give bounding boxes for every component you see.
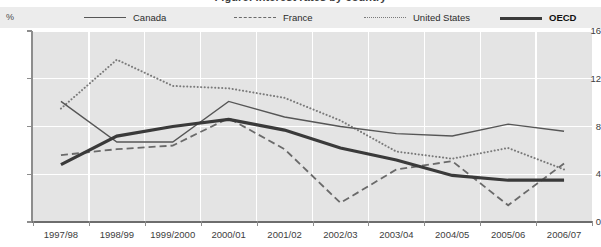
legend-swatch-solid-thin-icon bbox=[84, 17, 126, 18]
legend-swatch-dotted-icon bbox=[364, 17, 406, 18]
series-line-canada bbox=[61, 101, 564, 142]
plot-area: 0481216 1997/981998/991999/20002000/0120… bbox=[0, 28, 601, 247]
series-lines bbox=[0, 28, 601, 247]
chart-legend: % CanadaFranceUnited StatesOECD bbox=[0, 7, 601, 28]
chart-figure: Figure: Interest rates by country % Cana… bbox=[0, 0, 601, 247]
legend-label: France bbox=[283, 12, 313, 23]
clipped-title-strip: Figure: Interest rates by country bbox=[0, 0, 601, 7]
legend-swatch-dashed-icon bbox=[234, 17, 276, 18]
chart-title: Figure: Interest rates by country bbox=[0, 0, 601, 3]
y-axis-unit-label: % bbox=[6, 12, 14, 22]
legend-label: United States bbox=[413, 12, 470, 23]
legend-label: OECD bbox=[549, 12, 576, 23]
legend-label: Canada bbox=[133, 12, 166, 23]
legend-swatch-solid-thick-icon bbox=[500, 17, 542, 20]
series-line-united-states bbox=[61, 60, 564, 170]
